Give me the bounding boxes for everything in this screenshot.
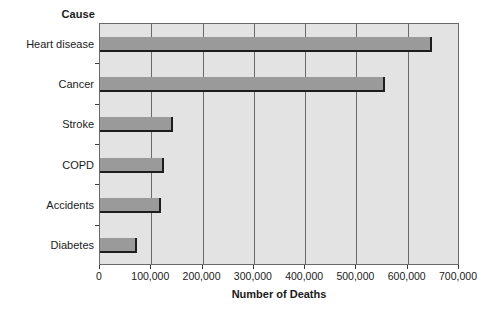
bar-row — [100, 158, 460, 174]
plot-area — [99, 23, 459, 265]
plot-inner — [100, 24, 458, 264]
x-tick-label: 0 — [96, 270, 102, 282]
y-axis-label: Accidents — [0, 199, 94, 211]
gridline — [408, 24, 409, 264]
gridline — [356, 24, 357, 264]
bar — [100, 158, 164, 173]
y-axis-label: Stroke — [0, 118, 94, 130]
bar-row — [100, 77, 460, 93]
bar-row — [100, 198, 460, 214]
x-tick-mark — [304, 265, 305, 269]
bar — [100, 238, 137, 253]
x-tick-label: 600,000 — [388, 270, 426, 282]
x-axis-title: Number of Deaths — [99, 288, 459, 300]
gridline — [151, 24, 152, 264]
x-tick-mark — [407, 265, 408, 269]
bar — [100, 117, 173, 132]
y-axis-label: Cancer — [0, 78, 94, 90]
y-tick-mark — [95, 144, 99, 145]
y-axis-label: Heart disease — [0, 38, 94, 50]
gridline — [203, 24, 204, 264]
bar — [100, 37, 432, 52]
y-axis-title: Cause — [0, 8, 95, 20]
x-tick-mark — [355, 265, 356, 269]
x-tick-label: 200,000 — [183, 270, 221, 282]
y-axis-label: COPD — [0, 159, 94, 171]
y-tick-mark — [95, 63, 99, 64]
x-tick-mark — [253, 265, 254, 269]
bar-chart: Cause Heart diseaseCancerStrokeCOPDAccid… — [0, 0, 502, 309]
gridline — [305, 24, 306, 264]
x-tick-mark — [458, 265, 459, 269]
y-tick-mark — [95, 225, 99, 226]
x-tick-mark — [99, 265, 100, 269]
x-tick-label: 700,000 — [439, 270, 477, 282]
x-tick-label: 300,000 — [234, 270, 272, 282]
y-tick-mark — [95, 184, 99, 185]
x-tick-mark — [150, 265, 151, 269]
bar — [100, 77, 385, 92]
y-axis-label: Diabetes — [0, 239, 94, 251]
bar-row — [100, 37, 460, 53]
gridline — [254, 24, 255, 264]
bar-row — [100, 238, 460, 254]
y-tick-mark — [95, 104, 99, 105]
x-tick-mark — [202, 265, 203, 269]
x-tick-label: 100,000 — [131, 270, 169, 282]
bar — [100, 198, 161, 213]
x-tick-label: 400,000 — [285, 270, 323, 282]
bar-row — [100, 117, 460, 133]
x-tick-label: 500,000 — [336, 270, 374, 282]
